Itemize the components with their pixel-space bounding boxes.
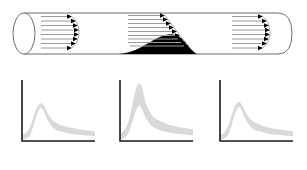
doppler-waveform-charts bbox=[0, 76, 307, 170]
arrowhead-group-proximal bbox=[67, 14, 79, 50]
waveform-band-distal bbox=[220, 102, 293, 140]
waveform-band-proximal bbox=[22, 103, 95, 140]
velocity-profile-proximal bbox=[41, 14, 79, 50]
chart-doppler-waveform-stenosis bbox=[120, 80, 193, 141]
stenosis-flow-figure bbox=[0, 0, 307, 170]
stenosis-plaque bbox=[118, 34, 198, 54]
pipe-left-opening-icon bbox=[13, 13, 35, 54]
vessel-pipe bbox=[0, 0, 307, 72]
velocity-profile-distal bbox=[232, 14, 270, 50]
waveform-band-stenosis bbox=[120, 84, 193, 140]
pipe-right-cap bbox=[278, 13, 292, 54]
chart-doppler-waveform-distal bbox=[220, 80, 293, 141]
chart-doppler-waveform-proximal bbox=[22, 80, 95, 141]
arrowhead-group-distal bbox=[258, 14, 270, 50]
